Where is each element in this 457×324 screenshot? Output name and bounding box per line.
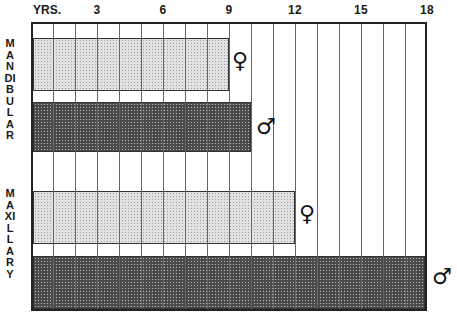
grid-line	[229, 24, 230, 309]
female-symbol-icon: ♀	[232, 50, 248, 72]
x-tick-12: 12	[288, 3, 302, 17]
grid-line	[141, 24, 142, 309]
x-tick-18: 18	[420, 3, 434, 17]
plot-grid	[31, 22, 427, 311]
group-label-mandibular: MANDIBULAR	[4, 38, 16, 142]
grid-line	[97, 24, 98, 309]
group-label-maxillary: MAXILLARY	[4, 188, 16, 280]
grid-line	[317, 24, 318, 309]
grid-line	[207, 24, 208, 309]
grid-line	[383, 24, 384, 309]
x-tick-6: 6	[160, 3, 167, 17]
grid-line	[339, 24, 340, 309]
bar-mandibular-female	[33, 38, 229, 91]
grid-line	[185, 24, 186, 309]
bar-maxillary-female	[33, 191, 295, 244]
grid-line	[295, 24, 296, 309]
grid-line	[273, 24, 274, 309]
x-tick-15: 15	[354, 3, 368, 17]
x-axis-unit-label: YRS.	[33, 3, 61, 17]
grid-line	[405, 24, 406, 309]
female-symbol-icon: ♀	[299, 203, 315, 225]
grid-line	[251, 24, 252, 309]
grid-line	[119, 24, 120, 309]
bar-mandibular-male	[33, 102, 251, 152]
grid-line	[75, 24, 76, 309]
male-symbol-icon: ♂	[256, 116, 276, 138]
x-tick-9: 9	[226, 3, 233, 17]
male-symbol-icon: ♂	[432, 266, 452, 288]
x-tick-3: 3	[94, 3, 101, 17]
chart-area: YRS. 3 6 9 12 15 18 MANDIBULAR MAXILLARY…	[0, 0, 457, 324]
grid-line	[53, 24, 54, 309]
grid-line	[163, 24, 164, 309]
grid-line	[361, 24, 362, 309]
